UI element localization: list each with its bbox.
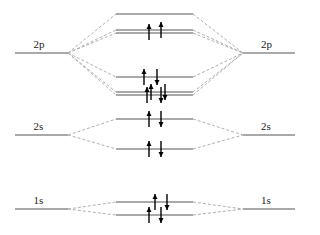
arrowhead-icon — [163, 95, 168, 100]
correlation-line-right — [193, 202, 243, 209]
arrowhead-icon — [145, 87, 150, 92]
arrowhead-icon — [147, 24, 152, 29]
correlation-line-right — [193, 53, 243, 95]
correlation-line-left — [68, 119, 116, 135]
correlation-line-left — [68, 209, 116, 215]
correlation-line-left — [68, 53, 116, 92]
arrowhead-icon — [149, 84, 154, 89]
correlation-line-left — [68, 53, 116, 95]
arrowhead-icon — [159, 152, 164, 157]
arrowhead-icon — [147, 111, 152, 116]
correlation-line-right — [193, 135, 243, 149]
atomic-label-right-2p: 2p — [261, 39, 272, 50]
arrowhead-icon — [165, 205, 170, 210]
correlation-line-right — [193, 209, 243, 215]
atomic-label-right-1s: 1s — [261, 195, 271, 206]
correlation-line-right — [193, 14, 243, 53]
arrowhead-icon — [159, 218, 164, 223]
atomic-label-right-2s: 2s — [261, 121, 271, 132]
correlation-line-right — [193, 53, 243, 77]
correlation-line-right — [193, 33, 243, 53]
arrowhead-icon — [142, 69, 147, 74]
arrowhead-icon — [155, 80, 160, 85]
arrowhead-icon — [147, 141, 152, 146]
correlation-line-right — [193, 119, 243, 135]
arrowhead-icon — [159, 122, 164, 127]
arrowhead-icon — [159, 22, 164, 27]
arrowhead-icon — [147, 207, 152, 212]
correlation-line-left — [68, 135, 116, 149]
correlation-line-left — [68, 202, 116, 209]
atomic-label-left-1s: 1s — [34, 195, 44, 206]
arrowhead-icon — [159, 98, 164, 103]
atomic-label-left-2s: 2s — [34, 121, 44, 132]
correlation-line-left — [68, 33, 116, 53]
atomic-label-left-2p: 2p — [34, 39, 45, 50]
arrowhead-icon — [153, 194, 158, 199]
